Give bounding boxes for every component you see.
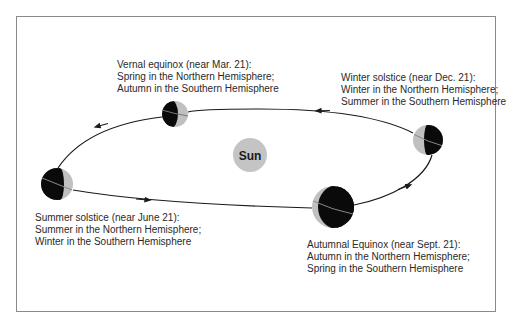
sun: Sun [233,138,267,172]
earth-autumnal-equinox [311,185,357,229]
autumnal-southern: Spring in the Southern Hemisphere [307,263,470,275]
orbit-arrow-right [398,186,409,190]
earth-summer-solstice [40,167,74,201]
winter-northern: Winter in the Northern Hemisphere; [341,84,506,96]
winter-southern: Summer in the Southern Hemisphere [341,96,506,108]
vernal-title: Vernal equinox (near Mar. 21): [117,59,279,71]
earth-vernal-equinox [160,99,190,129]
vernal-southern: Autumn in the Southern Hemisphere [117,83,279,95]
autumnal-northern: Autumn in the Northern Hemisphere; [307,251,470,263]
label-vernal-equinox: Vernal equinox (near Mar. 21): Spring in… [117,59,279,95]
label-winter-solstice: Winter solstice (near Dec. 21): Winter i… [341,72,506,108]
vernal-northern: Spring in the Northern Hemisphere; [117,71,279,83]
orbit-diagram: Sun [0,0,513,329]
label-summer-solstice: Summer solstice (near June 21): Summer i… [35,212,201,248]
autumnal-title: Autumnal Equinox (near Sept. 21): [307,239,470,251]
label-autumnal-equinox: Autumnal Equinox (near Sept. 21): Autumn… [307,239,470,275]
summer-southern: Winter in the Southern Hemisphere [35,236,201,248]
earth-winter-solstice [412,124,444,156]
winter-title: Winter solstice (near Dec. 21): [341,72,506,84]
orbit-arrow-left [97,124,108,127]
summer-northern: Summer in the Northern Hemisphere; [35,224,201,236]
summer-title: Summer solstice (near June 21): [35,212,201,224]
sun-label: Sun [239,149,262,163]
